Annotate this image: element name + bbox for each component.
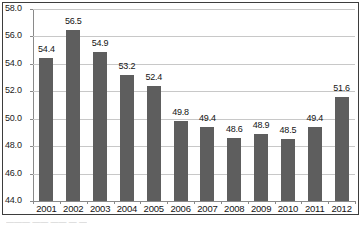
x-axis-tick-mark <box>167 201 168 204</box>
bar[interactable] <box>66 30 80 201</box>
bar-slot: 48.6 <box>221 9 248 201</box>
bar-value-label: 49.8 <box>172 108 189 117</box>
bar[interactable] <box>227 138 241 201</box>
bar[interactable] <box>335 97 349 201</box>
y-axis-tick-label: 46.0 <box>5 169 32 178</box>
x-axis-tick-mark <box>33 201 34 204</box>
clipped-caption-text: ——— —— —— — — <box>6 218 126 226</box>
bar-slot: 48.9 <box>248 9 275 201</box>
x-axis-tick-label: 2003 <box>87 203 114 214</box>
chart-frame: 44.046.048.050.052.054.056.058.0 54.456.… <box>2 2 359 215</box>
y-axis-tick-label: 48.0 <box>5 141 32 150</box>
x-axis-tick-mark <box>248 201 249 204</box>
bar-slot: 53.2 <box>114 9 141 201</box>
y-axis-tick-label: 44.0 <box>5 196 32 205</box>
x-axis-tick-label: 2009 <box>248 203 275 214</box>
bar[interactable] <box>39 58 53 201</box>
bar-slot: 52.4 <box>140 9 167 201</box>
bar-value-label: 54.4 <box>38 45 55 54</box>
bar[interactable] <box>254 134 268 201</box>
y-axis-tick-label: 52.0 <box>5 86 32 95</box>
bar[interactable] <box>308 127 322 201</box>
bar-slot: 49.4 <box>301 9 328 201</box>
bar-slot: 54.4 <box>33 9 60 201</box>
bar[interactable] <box>281 139 295 201</box>
x-axis-tick-label: 2011 <box>301 203 328 214</box>
x-axis-tick-mark <box>60 201 61 204</box>
x-axis-tick-label: 2002 <box>60 203 87 214</box>
x-axis-tick-mark <box>87 201 88 204</box>
bar[interactable] <box>200 127 214 201</box>
bar-slot: 49.4 <box>194 9 221 201</box>
bar-slot: 56.5 <box>60 9 87 201</box>
x-axis-tick-label: 2006 <box>167 203 194 214</box>
x-axis-tick-label: 2010 <box>275 203 302 214</box>
x-axis-tick-mark <box>301 201 302 204</box>
x-axis-tick-mark <box>355 201 356 204</box>
y-axis-tick-label: 56.0 <box>5 31 32 40</box>
y-axis-tick-label: 58.0 <box>5 4 32 13</box>
y-axis-tick-label: 50.0 <box>5 114 32 123</box>
bar-value-label: 51.6 <box>333 84 350 93</box>
x-axis-tick-label: 2005 <box>140 203 167 214</box>
bar-value-label: 49.4 <box>306 114 323 123</box>
y-axis-tick-label: 54.0 <box>5 59 32 68</box>
x-axis-tick-mark <box>328 201 329 204</box>
bar-value-label: 48.9 <box>253 121 270 130</box>
bar[interactable] <box>120 75 134 201</box>
x-axis-tick-label: 2001 <box>33 203 60 214</box>
bar-slot: 48.5 <box>275 9 302 201</box>
bar[interactable] <box>174 121 188 201</box>
y-axis-tick-labels: 44.046.048.050.052.054.056.058.0 <box>3 9 32 201</box>
x-axis-tick-label: 2012 <box>328 203 355 214</box>
bar-slot: 51.6 <box>328 9 355 201</box>
bar-value-label: 56.5 <box>65 17 82 26</box>
bar-value-label: 53.2 <box>119 62 136 71</box>
bar[interactable] <box>93 52 107 201</box>
bar-value-label: 48.5 <box>280 126 297 135</box>
x-axis-tick-label: 2004 <box>114 203 141 214</box>
bar-slot: 49.8 <box>167 9 194 201</box>
bar-value-label: 49.4 <box>199 114 216 123</box>
bar-value-label: 52.4 <box>145 73 162 82</box>
bar-value-label: 48.6 <box>226 125 243 134</box>
bar-value-label: 54.9 <box>92 39 109 48</box>
x-axis-tick-mark <box>140 201 141 204</box>
bar-slot: 54.9 <box>87 9 114 201</box>
x-axis-tick-label: 2007 <box>194 203 221 214</box>
x-axis-tick-label: 2008 <box>221 203 248 214</box>
clipped-caption: ——— —— —— — — <box>6 218 126 226</box>
x-axis-tick-mark <box>114 201 115 204</box>
x-axis-tick-labels: 2001200220032004200520062007200820092010… <box>33 203 355 216</box>
x-axis-tick-mark <box>194 201 195 204</box>
bar[interactable] <box>147 86 161 201</box>
x-axis-tick-mark <box>221 201 222 204</box>
x-axis-tick-mark <box>275 201 276 204</box>
plot-area: 54.456.554.953.252.449.849.448.648.948.5… <box>33 9 355 201</box>
